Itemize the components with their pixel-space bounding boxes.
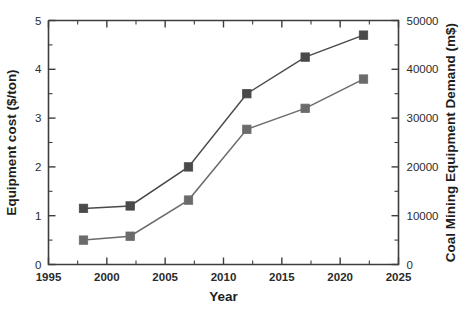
y2-tick-label: 10000 [407, 210, 439, 222]
x-tick-label: 2020 [327, 271, 353, 283]
y-axis-title: Equipment cost ($/ton) [4, 69, 19, 215]
data-point-marker [126, 232, 134, 240]
y2-tick-label: 50000 [407, 15, 439, 27]
data-point-marker [301, 53, 309, 61]
series-line-0 [84, 35, 364, 208]
x-tick-label: 2015 [269, 271, 295, 283]
data-point-marker [79, 204, 87, 212]
y-tick-label: 2 [35, 161, 41, 173]
x-tick-label: 2025 [386, 271, 412, 283]
x-tick-label: 1995 [36, 271, 62, 283]
data-point-marker [184, 196, 192, 204]
y2-tick-label: 40000 [407, 63, 439, 75]
axis-frame [49, 21, 399, 265]
y-tick-label: 1 [35, 210, 41, 222]
data-point-marker [359, 75, 367, 83]
y-tick-label: 5 [35, 15, 41, 27]
y-tick-label: 4 [35, 63, 42, 75]
y2-tick-label: 20000 [407, 161, 439, 173]
y-tick-label: 3 [35, 112, 41, 124]
data-point-marker [359, 31, 367, 39]
x-tick-label: 2000 [94, 271, 120, 283]
data-point-marker [301, 104, 309, 112]
chart-plot-area: 1995200020052010201520202025012345010000… [0, 0, 469, 310]
chart-figure: 1995200020052010201520202025012345010000… [0, 0, 469, 310]
series-line-1 [84, 79, 364, 240]
y-tick-label: 0 [35, 259, 41, 271]
data-point-marker [126, 202, 134, 210]
y2-tick-label: 30000 [407, 112, 439, 124]
x-tick-label: 2005 [152, 271, 178, 283]
data-point-marker [184, 163, 192, 171]
data-point-marker [79, 236, 87, 244]
y2-axis-title: Coal Mining Equipment Demand (m$) [443, 23, 458, 262]
x-tick-label: 2010 [211, 271, 237, 283]
y2-tick-label: 0 [407, 259, 413, 271]
x-axis-title: Year [209, 289, 238, 304]
data-point-marker [243, 125, 251, 133]
data-point-marker [243, 90, 251, 98]
